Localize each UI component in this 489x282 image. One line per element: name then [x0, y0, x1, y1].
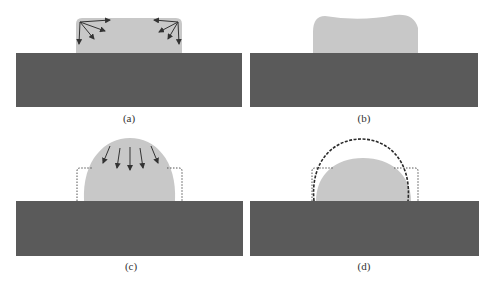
substrate	[16, 53, 242, 107]
panel-label-a: (a)	[123, 112, 136, 125]
reflow-diagram: (a) (b) (c) (d)	[0, 0, 489, 282]
panel-d: (d)	[250, 139, 479, 273]
panel-label-c: (c)	[125, 260, 138, 273]
panel-label-d: (d)	[358, 260, 371, 273]
substrate	[250, 53, 478, 107]
panel-label-b: (b)	[358, 112, 371, 125]
panel-a: (a)	[16, 18, 242, 125]
panel-b: (b)	[250, 15, 478, 125]
substrate	[16, 201, 243, 256]
panel-c: (c)	[16, 138, 243, 273]
final-dome	[316, 158, 411, 201]
substrate	[250, 201, 479, 256]
deformed-block	[313, 15, 418, 53]
material-block	[76, 18, 182, 53]
